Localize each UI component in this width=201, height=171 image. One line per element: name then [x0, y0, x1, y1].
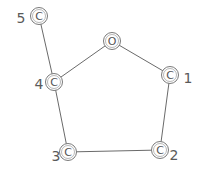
atom-index-label: 3	[52, 148, 61, 164]
atom-index-label: 2	[170, 147, 179, 163]
atom-symbol: C	[166, 69, 174, 82]
atoms-layer: OC1C2C3C4C5	[17, 8, 193, 165]
atom-c5: C5	[17, 8, 48, 27]
bond-c1-c2	[161, 83, 169, 141]
atom-c2: C2	[152, 142, 179, 164]
atom-index-label: 4	[35, 76, 44, 92]
atom-symbol: C	[64, 146, 72, 159]
atom-symbol: C	[35, 10, 43, 23]
molecule-diagram: OC1C2C3C4C5	[0, 0, 201, 171]
bond-c4-o	[61, 46, 105, 77]
atom-c4: C4	[35, 74, 63, 93]
atom-index-label: 5	[17, 10, 26, 26]
atom-index-label: 1	[184, 70, 193, 86]
bond-o-c1	[119, 45, 162, 70]
bond-c3-c4	[56, 90, 67, 143]
atom-symbol: C	[156, 144, 164, 157]
atom-symbol: O	[108, 35, 117, 48]
bond-c2-c3	[77, 150, 152, 152]
atom-symbol: C	[50, 76, 58, 89]
atom-o: O	[104, 33, 121, 50]
bond-c4-c5	[41, 24, 52, 73]
atom-c1: C1	[162, 67, 193, 87]
atom-c3: C3	[52, 144, 77, 165]
